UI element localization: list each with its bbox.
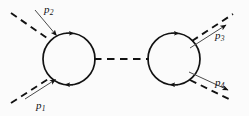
diagram-canvas: p2 p1 p3 p4 [0,0,249,116]
label-p4: p4 [215,77,224,88]
label-p3-base: p [215,29,221,41]
label-p3-sub: 3 [221,34,225,43]
label-p2-base: p [44,3,50,15]
label-p1: p1 [36,100,45,111]
label-p2: p2 [44,4,53,15]
label-p4-base: p [215,76,221,88]
label-p1-sub: 1 [42,104,46,113]
label-p1-base: p [36,99,42,111]
label-p3: p3 [215,30,224,41]
label-p4-sub: 4 [221,81,225,90]
label-p2-sub: 2 [50,8,54,17]
